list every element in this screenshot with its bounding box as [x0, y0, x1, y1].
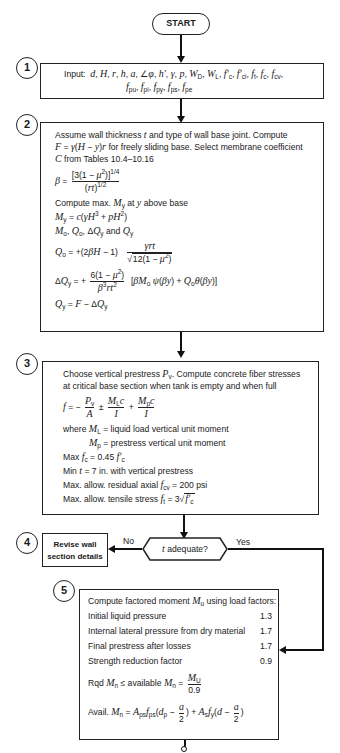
factor-row: Initial liquid pressure1.3: [88, 610, 272, 622]
arrow-left-icon: [279, 646, 286, 654]
start-label: START: [166, 18, 195, 28]
step2-content: Assume wall thickness t and type of wall…: [55, 129, 303, 310]
step5-intro: Compute factored moment Mu using load fa…: [88, 595, 272, 607]
no-label: No: [123, 535, 134, 547]
step2-intro-2: F = γ(H − y)r for freely sliding base. S…: [55, 141, 303, 153]
max-residual-axial: Max. allow. residual axial fcv = 200 psi: [63, 479, 300, 491]
beta-formula: β = [3(1 − μ2)]1/4(rt)1/2: [55, 169, 303, 194]
arrow-down-icon: [177, 351, 185, 358]
factor-row: Internal lateral pressure from dry mater…: [88, 625, 272, 637]
delta-qy-formula: ΔQy = + 6(1 − μ2)β3rt2 [βMo ψ(βy) + Qoθ(…: [55, 269, 303, 294]
f-formula: f = − PvA ± MLcI + MpcI: [63, 395, 300, 420]
revise-wall-box: Revise wall section details: [42, 533, 108, 567]
arrow-down-icon: [177, 56, 185, 63]
step5-moment-box: Compute factored moment Mu using load fa…: [79, 589, 279, 740]
arrow-left-icon: [108, 545, 115, 553]
step-number-4: 4: [16, 532, 38, 554]
step2-intro-3: C from Tables 10.4–10.16: [55, 153, 303, 165]
compute-max-my: Compute max. My at y above base: [55, 197, 303, 209]
connector-2-3: [180, 332, 182, 352]
input-line-2: fpu, fpi, fpy, fps, fpe: [126, 81, 192, 93]
yes-branch-line: [228, 548, 324, 550]
step-number-1: 1: [16, 57, 38, 79]
decision-label: t t adequate?adequate?: [142, 543, 228, 555]
step-number-3: 3: [16, 353, 38, 375]
step-number-5: 5: [53, 580, 75, 602]
step2-analysis-box: Assume wall thickness t and type of wall…: [40, 122, 324, 332]
where-ml: where ML = liquid load vertical unit mom…: [63, 423, 300, 435]
connector-1-2: [180, 99, 182, 117]
min-t: Min t = 7 in. with vertical prestress: [63, 465, 300, 477]
no-branch-line: [114, 548, 142, 550]
mp-definition: Mp = prestress vertical unit moment: [63, 437, 300, 449]
step3-intro-1: Choose vertical prestress Pv. Compute co…: [63, 368, 300, 380]
my-formula: My = c(γH3 + pH2): [55, 211, 303, 223]
yes-branch-down: [322, 548, 324, 650]
rqd-mn-formula: Rqd Mn ≤ available Mn = MU0.9: [88, 672, 272, 696]
connector-3-4: [183, 515, 185, 533]
yes-label: Yes: [236, 536, 250, 548]
continuation-connector-icon: [181, 746, 187, 752]
step3-prestress-box: Choose vertical prestress Pv. Compute co…: [42, 361, 319, 515]
step3-intro-2: at critical base section when tank is em…: [63, 380, 300, 392]
step3-content: Choose vertical prestress Pv. Compute co…: [63, 368, 300, 505]
factor-row: Strength reduction factor0.9: [88, 655, 272, 667]
yes-branch-return: [285, 649, 324, 651]
step5-content: Compute factored moment Mu using load fa…: [88, 595, 272, 725]
mo-qo-line: Mo, Qo, ΔQy and Qy: [55, 225, 303, 237]
max-tensile-stress: Max. allow. tensile stress ft = 3√f′c: [63, 493, 300, 505]
start-terminal: START: [152, 13, 210, 35]
step1-input-box: Input: d, H, r, h, a, ∠φ, h′, γ, p, WD, …: [40, 63, 324, 99]
qy-formula: Qy = F − ΔQy: [55, 298, 303, 310]
step-number-2: 2: [16, 114, 38, 136]
max-fc: Max fc = 0.45 f′c: [63, 451, 300, 463]
qo-formula: Qo = +(2βH − 1) γrt√12(1 − μ2): [55, 240, 303, 265]
revise-line-1: Revise wall: [43, 539, 107, 551]
input-line-1: Input: d, H, r, h, a, ∠φ, h′, γ, p, WD, …: [64, 68, 283, 80]
revise-line-2: section details: [43, 551, 107, 563]
factor-row: Final prestress after losses1.7: [88, 640, 272, 652]
step2-intro-1: Assume wall thickness t and type of wall…: [55, 129, 303, 141]
avail-mn-formula: Avail. Mn = Apsfps(dp − a2) + Asfy(d − a…: [88, 701, 272, 725]
connector-start-1: [180, 35, 182, 57]
